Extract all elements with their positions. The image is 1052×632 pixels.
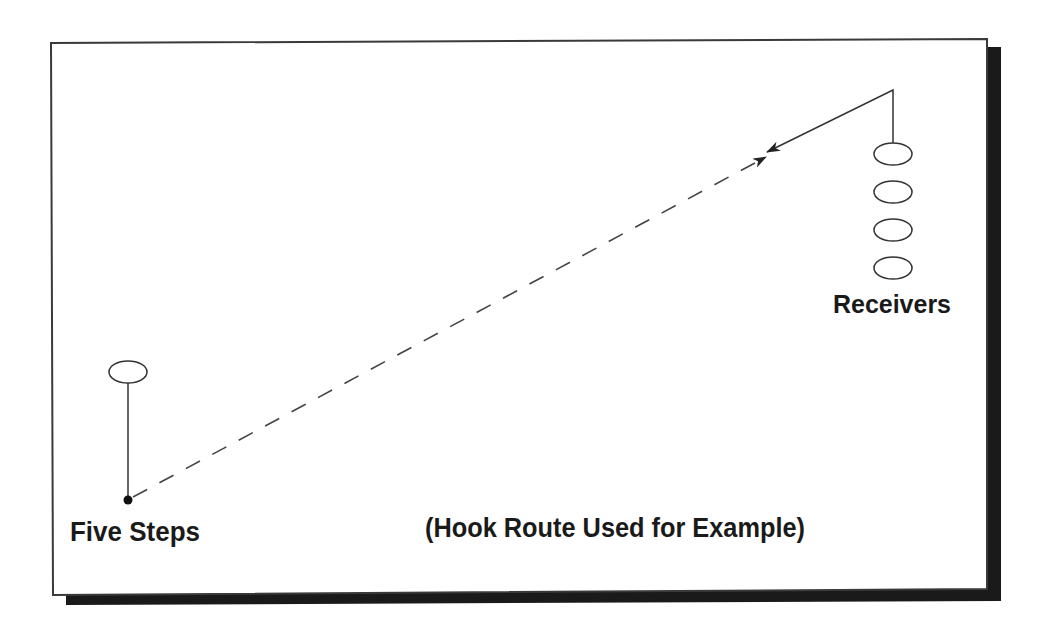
caption-label: (Hook Route Used for Example) xyxy=(425,513,805,543)
receivers-label: Receivers xyxy=(833,290,951,318)
hook-route-diagram: Receivers Five Steps (Hook Route Used fo… xyxy=(0,0,1052,632)
five-steps-label: Five Steps xyxy=(70,516,200,547)
drop-point-dot xyxy=(124,496,133,505)
